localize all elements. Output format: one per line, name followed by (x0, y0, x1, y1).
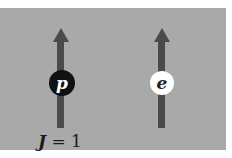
electron-particle: e (150, 71, 174, 95)
equals-sign: = (51, 131, 65, 151)
spin-value: 1 (71, 131, 82, 151)
proton-spin-arrow-head-icon (53, 28, 69, 42)
spin-variable: J (38, 131, 46, 151)
diagram-panel (0, 8, 226, 150)
total-spin-label: J = 1 (38, 131, 82, 151)
proton-symbol: p (56, 73, 68, 93)
electron-symbol: e (157, 73, 168, 93)
proton-particle: p (49, 70, 75, 96)
electron-spin-arrow-head-icon (154, 28, 170, 42)
